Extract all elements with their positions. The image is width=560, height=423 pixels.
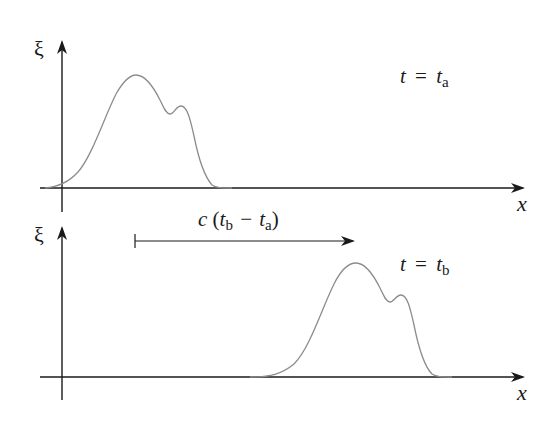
- top-x-axis-label: x: [517, 193, 527, 215]
- equals-sign: =: [411, 64, 431, 88]
- top-y-axis-label: ξ: [34, 38, 44, 60]
- bottom-time-label: t = tb: [400, 254, 450, 275]
- open-paren: (: [213, 207, 220, 231]
- bottom-x-axis-label: x: [517, 382, 527, 404]
- time-subscript: a: [442, 74, 449, 90]
- top-time-label: t = ta: [400, 66, 449, 87]
- bottom-y-axis-label: ξ: [34, 224, 44, 246]
- equals-sign: =: [411, 252, 431, 276]
- close-paren: ): [272, 207, 279, 231]
- minus-sign: −: [238, 207, 254, 231]
- time-subscript: b: [225, 217, 233, 233]
- speed-symbol: c: [198, 207, 207, 231]
- shift-arrow: [135, 234, 353, 248]
- wave-translation-diagram: [0, 0, 560, 423]
- time-subscript: a: [265, 217, 272, 233]
- time-subscript: b: [442, 262, 450, 278]
- time-symbol: t: [400, 64, 406, 88]
- shift-label: c (tb − ta): [198, 209, 279, 230]
- bottom-pulse-curve: [250, 263, 452, 377]
- bottom-panel: [40, 228, 523, 400]
- time-symbol: t: [400, 252, 406, 276]
- top-panel: [40, 42, 523, 212]
- top-pulse-curve: [45, 75, 232, 188]
